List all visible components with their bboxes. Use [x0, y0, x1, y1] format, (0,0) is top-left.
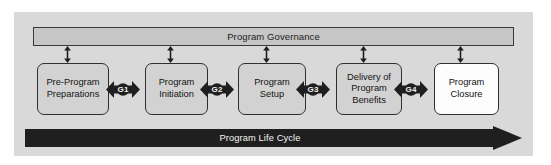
- connector-governance-to-program-closure: [454, 46, 467, 63]
- connector-governance-to-delivery-of-program-benefits: [357, 46, 370, 63]
- program-lifecycle-diagram: Program Governance: [0, 0, 551, 165]
- gate-marker-g3[interactable]: G3: [296, 80, 330, 99]
- phase-label-program-closure: Program Closure: [449, 77, 485, 100]
- phase-label-program-setup: Program Setup: [254, 77, 290, 100]
- gate-label-g4: G4: [394, 80, 428, 99]
- gate-label-g2: G2: [200, 80, 234, 99]
- gate-label-g3: G3: [296, 80, 330, 99]
- connector-governance-to-program-setup: [260, 46, 273, 63]
- program-governance-label: Program Governance: [227, 31, 320, 42]
- connector-governance-to-pre-program-preparations: [61, 46, 74, 63]
- phase-box-delivery-of-program-benefits[interactable]: Delivery of Program Benefits: [336, 63, 402, 115]
- gate-marker-g1[interactable]: G1: [106, 80, 140, 99]
- program-governance-bar: Program Governance: [33, 27, 514, 46]
- phase-label-program-initiation: Program Initiation: [159, 77, 195, 100]
- right-arrow-icon: [25, 126, 522, 150]
- connector-governance-to-program-initiation: [164, 46, 177, 63]
- gate-label-g1: G1: [106, 80, 140, 99]
- phase-box-program-closure[interactable]: Program Closure: [434, 63, 499, 115]
- double-arrow-vertical-icon: [260, 46, 273, 63]
- gate-marker-g4[interactable]: G4: [394, 80, 428, 99]
- phase-box-program-initiation[interactable]: Program Initiation: [145, 63, 208, 115]
- double-arrow-vertical-icon: [164, 46, 177, 63]
- phase-label-delivery-of-program-benefits: Delivery of Program Benefits: [347, 72, 391, 107]
- double-arrow-vertical-icon: [357, 46, 370, 63]
- phase-label-pre-program-preparations: Pre-Program Preparations: [46, 77, 99, 100]
- gate-marker-g2[interactable]: G2: [200, 80, 234, 99]
- program-life-cycle-arrow: [25, 126, 522, 150]
- phase-box-pre-program-preparations[interactable]: Pre-Program Preparations: [37, 63, 109, 115]
- double-arrow-vertical-icon: [454, 46, 467, 63]
- double-arrow-vertical-icon: [61, 46, 74, 63]
